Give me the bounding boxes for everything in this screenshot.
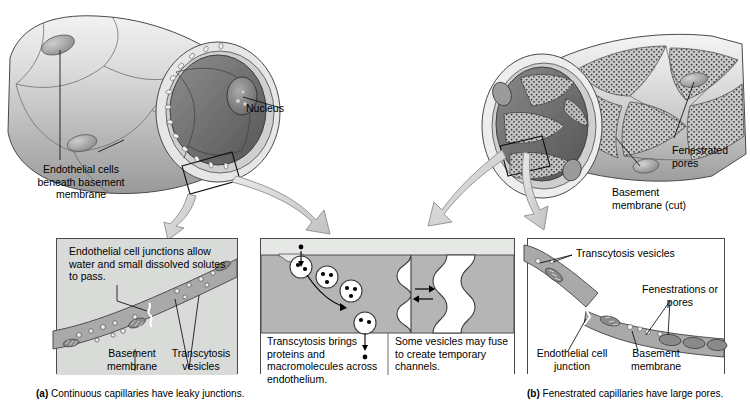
panel-b-fenestrations: Fenestrations or pores bbox=[640, 283, 720, 308]
panel-b-transcytosis-vesicles: Transcytosis vesicles bbox=[576, 247, 675, 260]
arrow-to-left-panel bbox=[164, 194, 196, 240]
panel-fenestrated-capillary-detail: Transcytosis vesicles Fenestrations or p… bbox=[527, 238, 725, 374]
caption-b-marker: (b) bbox=[527, 388, 540, 399]
caption-a: (a) Continuous capillaries have leaky ju… bbox=[36, 388, 244, 400]
panel-b-endothelial-junction: Endothelial cell junction bbox=[530, 347, 614, 372]
figure-canvas: Nucleus Endothelial cells beneath baseme… bbox=[0, 0, 750, 406]
caption-a-marker: (a) bbox=[36, 388, 48, 399]
panel-continuous-capillary-detail: Endothelial cell junctions allow water a… bbox=[56, 238, 238, 374]
arrow-to-middle-panel-right bbox=[428, 150, 506, 226]
caption-a-text: Continuous capillaries have leaky juncti… bbox=[51, 388, 244, 399]
panel-a-basement-membrane: Basement membrane bbox=[101, 347, 163, 372]
panel-b-basement-membrane: Basement membrane bbox=[616, 347, 696, 372]
arrow-to-middle-panel bbox=[232, 176, 330, 234]
transcytosis-vesicle bbox=[536, 259, 541, 264]
caption-b: (b) Fenestrated capillaries have large p… bbox=[527, 388, 723, 400]
panel-mid-channels-note: Some vesicles may fuse to create tempora… bbox=[395, 335, 513, 373]
macromolecule bbox=[299, 245, 304, 250]
panel-mid-transcytosis-note: Transcytosis brings proteins and macromo… bbox=[267, 335, 389, 385]
panel-transcytosis-detail: Transcytosis brings proteins and macromo… bbox=[260, 238, 515, 374]
panel-a-transcytosis-vesicles: Transcytosis vesicles bbox=[167, 347, 235, 372]
caption-b-text: Fenestrated capillaries have large pores… bbox=[543, 388, 724, 399]
panel-a-junction-note: Endothelial cell junctions allow water a… bbox=[69, 245, 235, 283]
arrow-to-right-panel bbox=[522, 152, 548, 230]
